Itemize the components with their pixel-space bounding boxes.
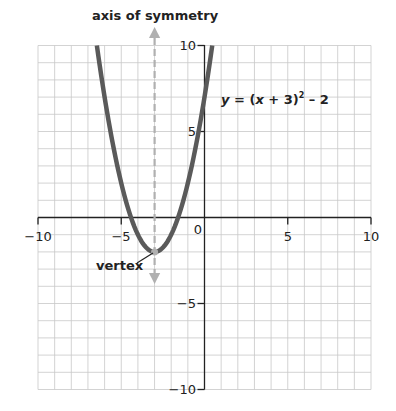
arrow-up-icon	[149, 27, 160, 38]
chart-title: axis of symmetry	[92, 8, 219, 23]
y-tick-label: 5	[188, 124, 196, 139]
y-tick-label: −5	[177, 296, 196, 311]
origin-label: 0	[194, 222, 202, 237]
parabola-chart: axis of symmetry y = (x + 3)2 – 2 vertex…	[0, 0, 396, 411]
x-tick-label: 5	[284, 229, 292, 244]
x-tick-label: −10	[24, 229, 51, 244]
vertex-label: vertex	[96, 258, 144, 273]
arrow-down-icon	[149, 273, 160, 284]
y-tick-label: 10	[179, 38, 196, 53]
y-tick-label: −10	[169, 382, 196, 397]
vertex-point	[151, 248, 158, 255]
x-tick-label: 10	[363, 229, 380, 244]
x-tick-label: −5	[111, 229, 130, 244]
equation-label: y = (x + 3)2 – 2	[221, 91, 329, 107]
